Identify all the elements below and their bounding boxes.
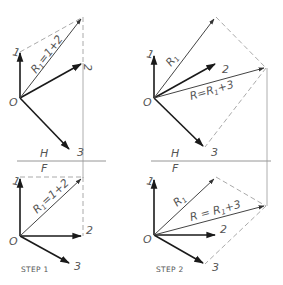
vector-3-label: 3 [77, 146, 84, 159]
dashed-construction-line [216, 17, 266, 68]
label-h-left: H [40, 147, 48, 160]
vector-2-label: 2 [222, 63, 229, 76]
reference-line-left: H F [17, 147, 106, 175]
step-2-caption: STEP 2 [156, 265, 184, 274]
origin-label: O [9, 96, 18, 109]
step1-top-view: O 1 2 3 R1=1+2 [9, 17, 94, 178]
vector-2-label: 2 [220, 223, 227, 236]
vector-3-label: 3 [211, 146, 218, 159]
partial-r1-label: R1 [171, 192, 189, 211]
label-f-right: F [172, 162, 179, 175]
partial-r1-label: R1 [163, 51, 181, 69]
dashed-construction-line [205, 68, 266, 147]
resultant-r1-label: R1=1+2 [30, 176, 72, 217]
label-h-right: H [171, 147, 179, 160]
vector-addition-diagram: H F H F O 1 2 3 R1=1+2 O 1 2 3 R [0, 0, 283, 285]
vector-3-label: 3 [74, 260, 81, 273]
origin-label: O [143, 96, 152, 109]
origin-label: O [143, 233, 152, 246]
vector-3-arrow [154, 98, 203, 146]
vector-2-label: 2 [81, 64, 94, 71]
vector-3-arrow [20, 98, 69, 149]
origin-label: O [9, 235, 18, 248]
vector-3-arrow [20, 236, 69, 263]
step1-front-view: O 1 2 3 R1=1+2 STEP 1 [9, 174, 93, 274]
vector-3-label: 3 [212, 261, 219, 274]
vector-3-arrow [154, 235, 203, 263]
resultant-r-label: R = R1+3 [188, 198, 242, 225]
step2-front-view: O 1 2 3 R1 R = R1+3 STEP 2 [143, 174, 266, 274]
step2-top-view: O 1 2 3 R1 R=R1+3 [143, 17, 267, 206]
resultant-r1-label: R1=1+2 [28, 33, 66, 77]
step-1-caption: STEP 1 [21, 265, 49, 274]
label-f-left: F [41, 162, 48, 175]
vector-2-label: 2 [86, 224, 93, 237]
